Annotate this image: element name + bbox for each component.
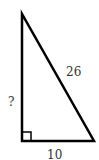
vertical-leg-label: ?: [8, 95, 14, 109]
right-triangle: [22, 14, 94, 141]
hypotenuse-label: 26: [66, 65, 81, 79]
triangle-diagram: 26 ? 10: [0, 0, 99, 160]
base-label: 10: [47, 148, 62, 160]
right-angle-marker: [22, 132, 31, 141]
